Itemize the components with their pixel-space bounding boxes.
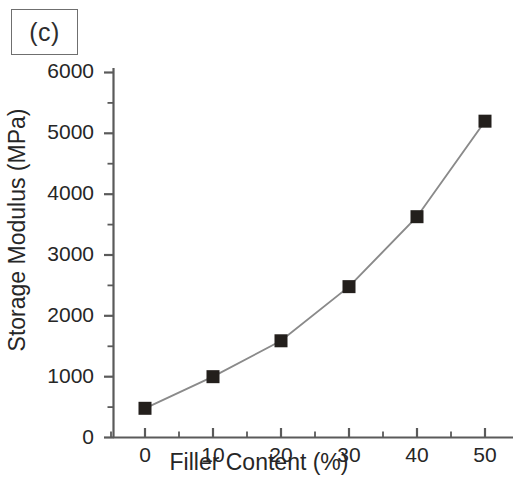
- y-axis-title: Storage Modulus (MPa): [4, 20, 34, 440]
- data-point-marker: [139, 402, 152, 415]
- figure-panel-c: (c): [0, 0, 518, 481]
- data-series-line: [145, 121, 485, 408]
- x-axis-title: Filler Content (%): [0, 449, 518, 476]
- data-point-marker: [411, 210, 424, 223]
- data-point-marker: [479, 115, 492, 128]
- y-major-ticks: [104, 73, 114, 438]
- data-point-marker: [343, 280, 356, 293]
- data-series-markers: [139, 115, 492, 415]
- data-point-marker: [207, 370, 220, 383]
- data-point-marker: [275, 334, 288, 347]
